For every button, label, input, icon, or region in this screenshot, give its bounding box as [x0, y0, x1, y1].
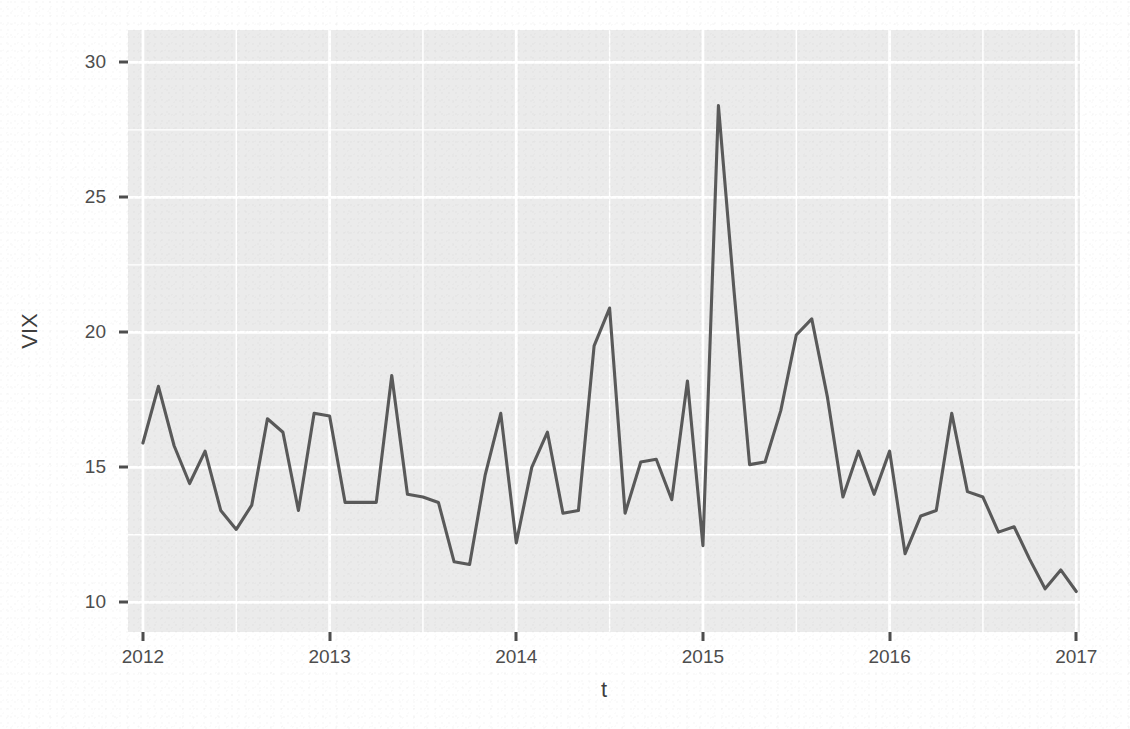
x-tick-mark [328, 632, 331, 641]
x-tick-label: 2013 [308, 646, 350, 668]
plot-panel [128, 30, 1080, 632]
x-tick-mark [141, 632, 144, 641]
vix-data-line [128, 30, 1080, 632]
x-tick-mark [888, 632, 891, 641]
x-tick-mark [515, 632, 518, 641]
vix-line-chart-figure: VIX t 1015202530 20122013201420152016201… [0, 0, 1130, 729]
x-tick-label: 2014 [495, 646, 537, 668]
x-tick-mark [701, 632, 704, 641]
x-tick-label: 2017 [1055, 646, 1097, 668]
x-tick-label: 2015 [682, 646, 724, 668]
x-tick-label: 2012 [122, 646, 164, 668]
x-tick-label: 2016 [868, 646, 910, 668]
x-tick-mark [1075, 632, 1078, 641]
vix-series-path [143, 106, 1076, 592]
